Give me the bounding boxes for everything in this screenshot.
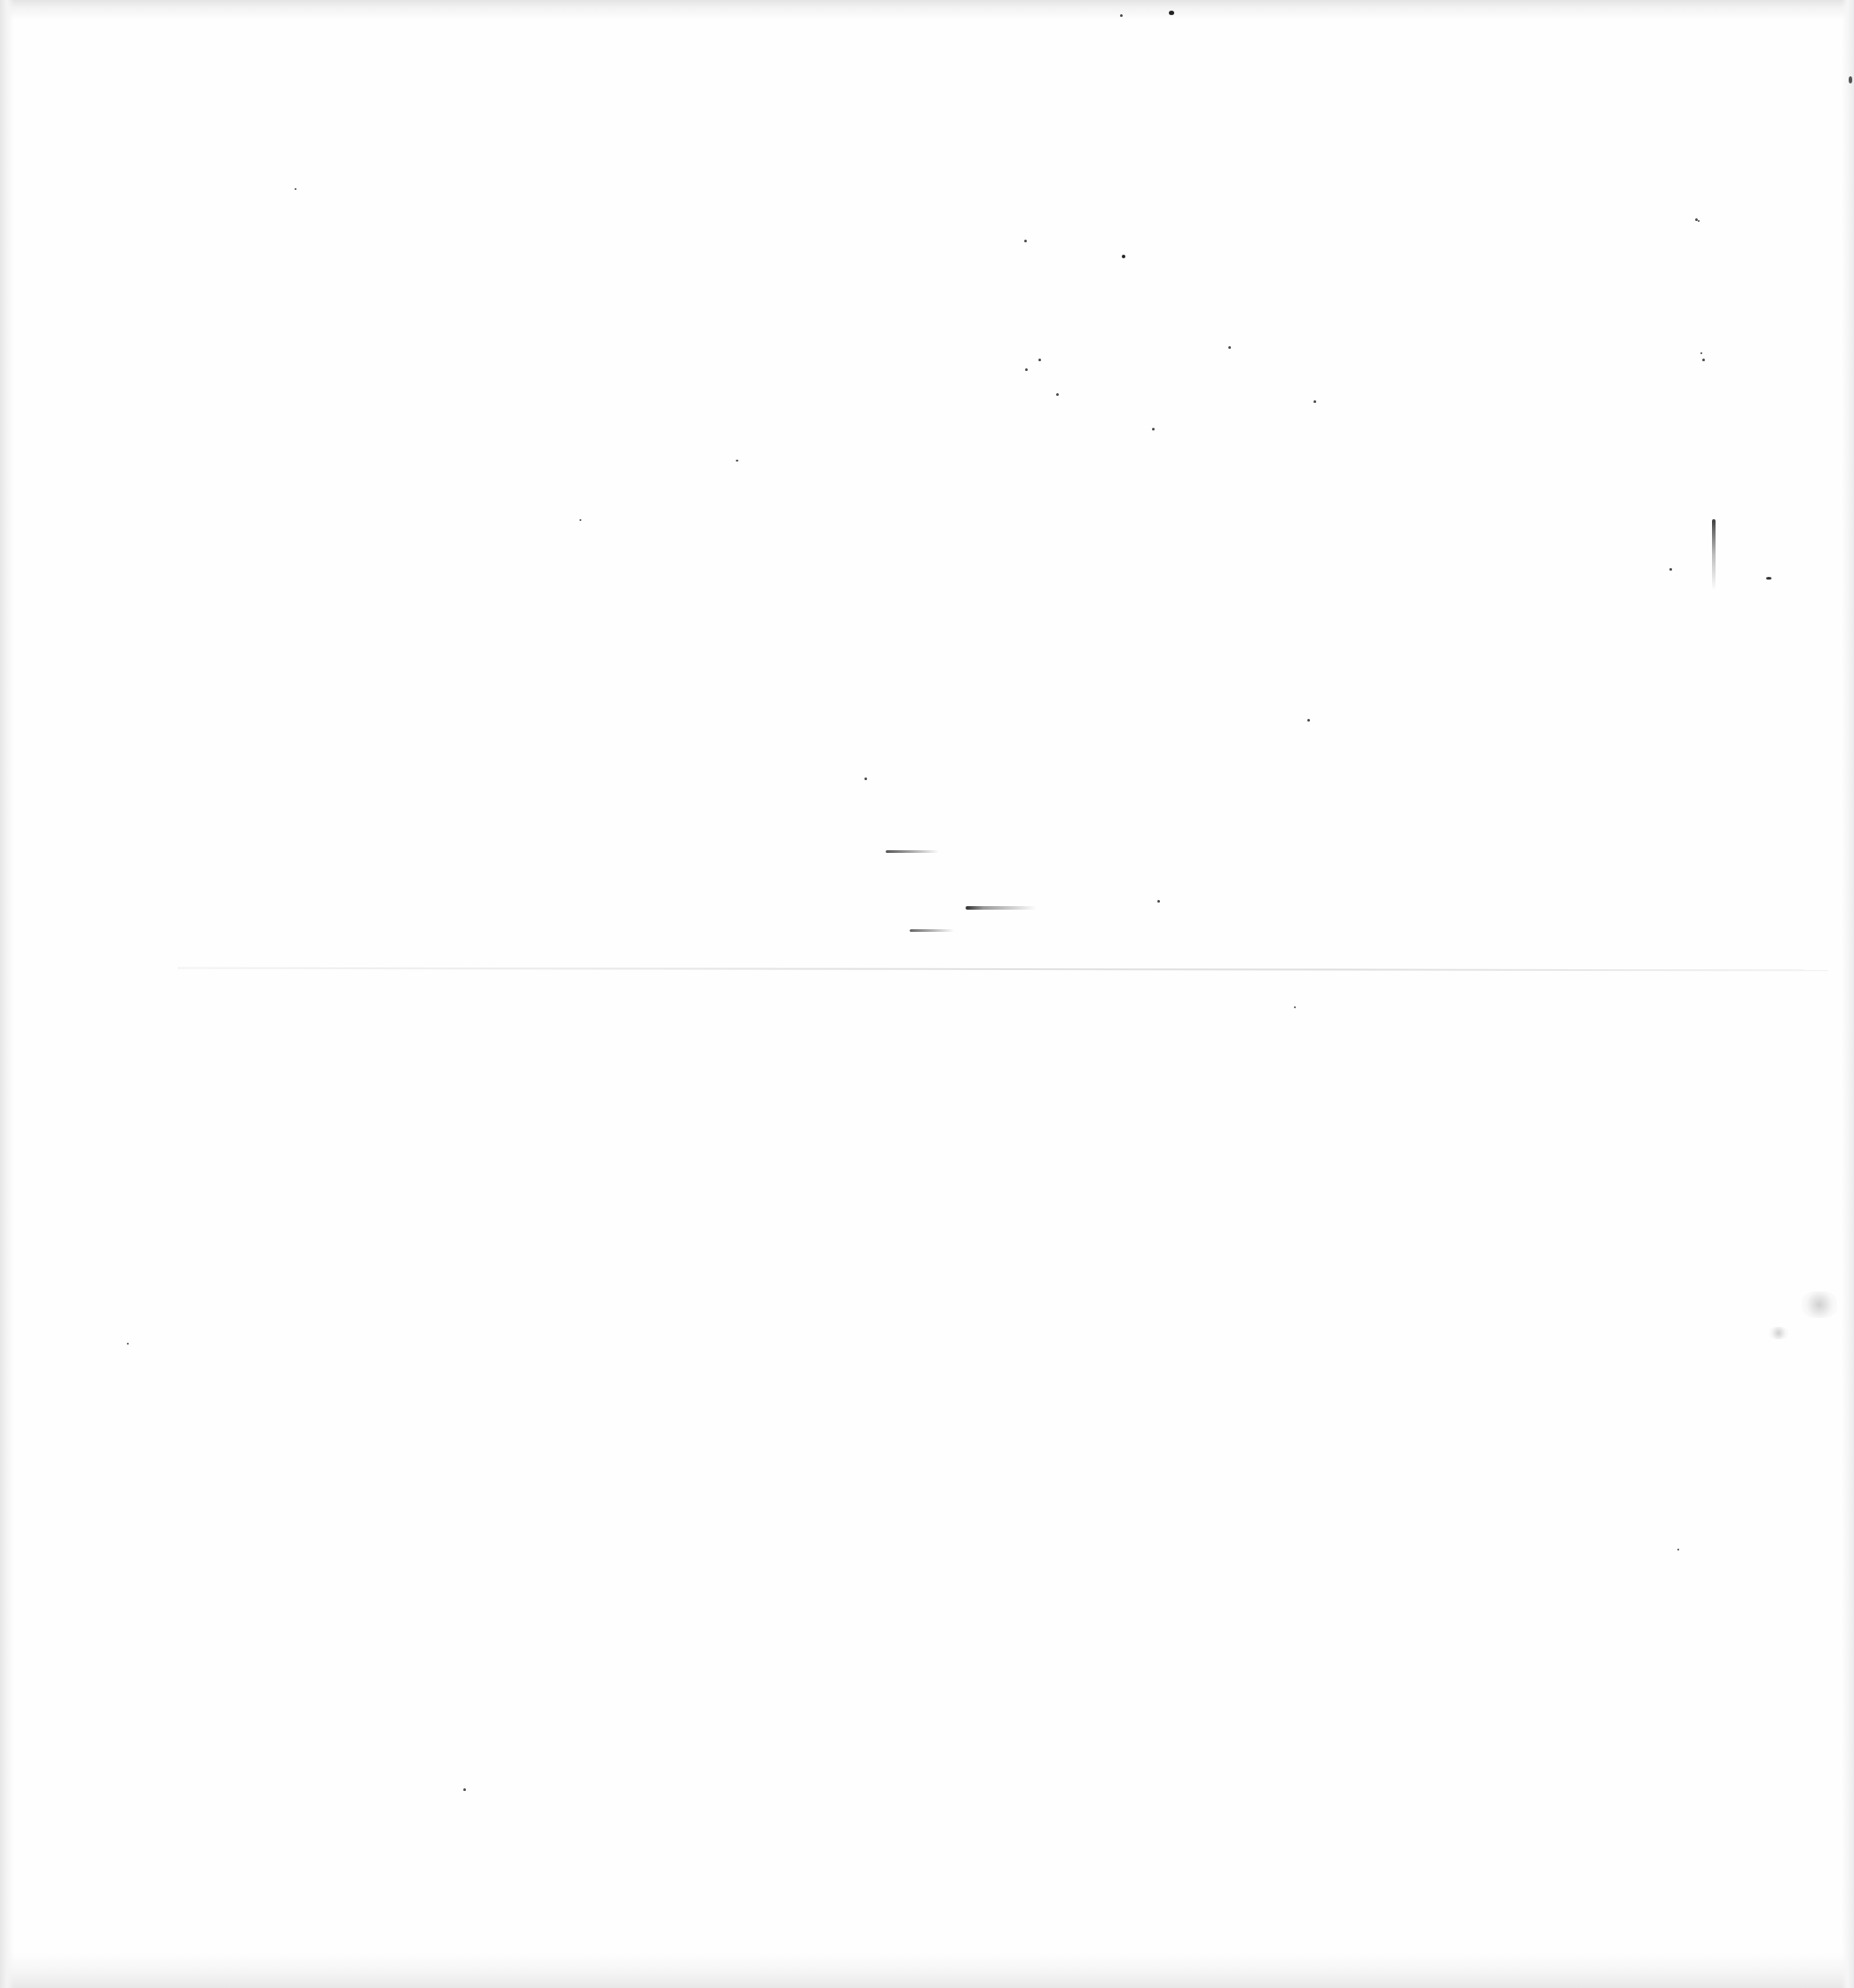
dust-speck — [1314, 400, 1316, 403]
scan-edge-bottom-shading — [0, 1952, 1854, 1988]
dust-speck — [1025, 368, 1028, 371]
dust-speck — [864, 777, 867, 780]
dust-speck — [127, 1343, 129, 1345]
dust-speck — [295, 188, 296, 190]
ink-smudge — [886, 850, 939, 853]
dust-speck — [1169, 11, 1174, 15]
dust-speck — [1700, 352, 1702, 354]
ink-smudge — [910, 929, 954, 932]
dust-speck — [1677, 1549, 1679, 1550]
paper-stain — [1769, 1327, 1788, 1339]
dust-speck — [1766, 577, 1771, 580]
dust-speck — [1024, 240, 1027, 242]
dust-speck — [1849, 76, 1852, 83]
ink-smudge — [966, 906, 1037, 910]
scan-streak — [1712, 519, 1716, 590]
dust-speck — [1294, 1006, 1296, 1008]
paper-stain — [1802, 1291, 1837, 1318]
scan-edge-left-shading — [0, 0, 14, 1988]
blank-page — [0, 0, 1854, 1988]
dust-speck — [1669, 568, 1672, 571]
dust-speck — [1122, 255, 1125, 258]
dust-speck — [1152, 428, 1155, 430]
dust-speck — [463, 1788, 466, 1791]
dust-speck — [1056, 393, 1059, 396]
dust-speck — [1307, 719, 1310, 722]
scan-edge-right-shading — [1842, 0, 1854, 1988]
dust-speck — [1228, 346, 1231, 349]
dust-speck — [736, 460, 738, 462]
dust-speck — [1157, 900, 1160, 903]
dust-speck — [1120, 14, 1123, 17]
dust-speck — [1038, 359, 1041, 361]
fold-line — [178, 967, 1828, 972]
dust-speck — [1698, 220, 1700, 222]
dust-speck — [580, 519, 581, 521]
scan-edge-top-shading — [0, 0, 1854, 20]
dust-speck — [1702, 359, 1705, 361]
